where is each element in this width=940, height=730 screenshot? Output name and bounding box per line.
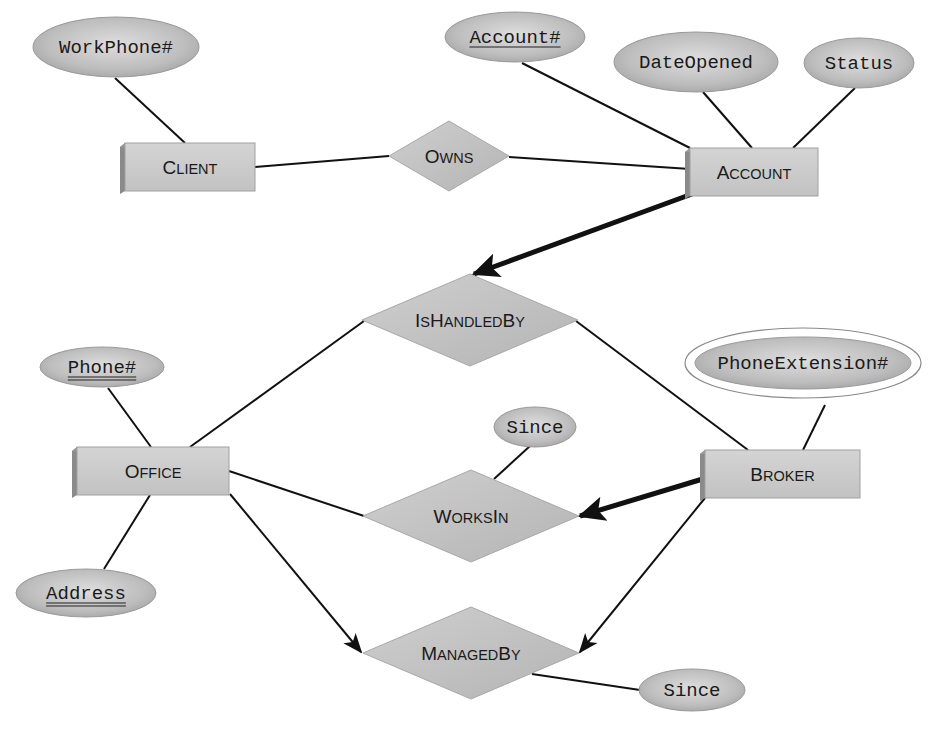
- attribute-since_worksin[interactable]: Since: [494, 407, 576, 447]
- connector-phoneext-broker: [803, 405, 825, 450]
- attribute-label: WorkPhone#: [59, 37, 173, 59]
- relationship-managedby[interactable]: MANAGEDBY: [363, 607, 579, 699]
- relationship-owns[interactable]: OWNS: [389, 121, 509, 191]
- entity-office[interactable]: OFFICE: [72, 447, 229, 498]
- entity-shadow: [72, 447, 77, 498]
- entity-shadow: [685, 148, 690, 199]
- entity-client[interactable]: CLIENT: [120, 143, 255, 194]
- connector-owns-account: [509, 157, 690, 169]
- connector-account-ishandledby: [474, 194, 692, 274]
- connector-workphone-client: [115, 78, 185, 143]
- attribute-dateopened[interactable]: DateOpened: [614, 32, 778, 92]
- connector-status-account: [793, 88, 855, 148]
- attribute-status[interactable]: Status: [804, 38, 914, 88]
- relationship-label: ISHANDLEDBY: [415, 310, 525, 331]
- relationship-label: OWNS: [425, 146, 474, 167]
- connector-since_worksin-worksin: [494, 446, 530, 479]
- attribute-label: Since: [506, 417, 563, 439]
- relationship-worksin[interactable]: WORKSIN: [363, 470, 579, 562]
- attribute-label: Account#: [469, 27, 560, 49]
- attribute-label: Status: [825, 53, 893, 75]
- relationship-label: WORKSIN: [434, 506, 509, 527]
- attribute-address[interactable]: Address: [16, 569, 156, 617]
- diagram-shapes: CLIENTACCOUNTOFFICEBROKEROWNSISHANDLEDBY…: [16, 12, 921, 711]
- attribute-workphone[interactable]: WorkPhone#: [33, 17, 199, 77]
- attribute-label: PhoneExtension#: [717, 353, 888, 375]
- er-diagram: CLIENTACCOUNTOFFICEBROKEROWNSISHANDLEDBY…: [0, 0, 940, 730]
- entity-label: CLIENT: [163, 157, 218, 178]
- entity-broker[interactable]: BROKER: [700, 450, 860, 501]
- attribute-accountno[interactable]: Account#: [445, 12, 585, 62]
- attribute-phoneno[interactable]: Phone#: [40, 347, 164, 387]
- entity-label: ACCOUNT: [717, 162, 792, 183]
- entity-account[interactable]: ACCOUNT: [685, 148, 818, 199]
- attribute-label: Address: [46, 583, 126, 605]
- connector-office-worksin: [229, 471, 364, 516]
- connector-broker-managedby: [580, 498, 705, 652]
- relationship-ishandledby[interactable]: ISHANDLEDBY: [362, 274, 578, 366]
- attribute-since_managedby[interactable]: Since: [639, 669, 745, 711]
- connector-managedby-since_managedby: [532, 674, 640, 690]
- entity-label: OFFICE: [125, 461, 182, 482]
- connector-office-managedby: [230, 494, 361, 652]
- connector-phoneno-office: [108, 388, 151, 447]
- connector-office-address: [104, 495, 150, 569]
- attribute-phoneext[interactable]: PhoneExtension#: [685, 328, 921, 398]
- entity-shadow: [120, 143, 125, 194]
- er-diagram-canvas: CLIENTACCOUNTOFFICEBROKEROWNSISHANDLEDBY…: [0, 0, 940, 730]
- connector-ishandledby-office: [190, 321, 364, 447]
- connector-dateopened-account: [703, 92, 752, 148]
- connector-broker-worksin: [580, 478, 706, 516]
- relationship-label: MANAGEDBY: [421, 643, 521, 664]
- connector-client-owns: [255, 156, 389, 167]
- entity-shadow: [700, 450, 705, 501]
- attribute-label: DateOpened: [639, 52, 753, 74]
- attribute-label: Phone#: [68, 357, 136, 379]
- entity-label: BROKER: [750, 464, 814, 485]
- attribute-label: Since: [663, 680, 720, 702]
